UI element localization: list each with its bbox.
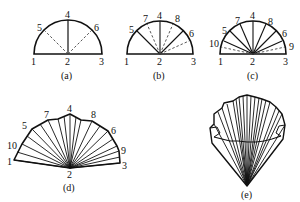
point-label-4: 4 <box>250 10 255 21</box>
caption-c: (c) <box>247 70 258 82</box>
point-label-1: 1 <box>218 56 223 67</box>
filter-paper-folding-diagram: 1 2 3 4 5 6 (a) 1 2 3 4 5 6 7 8 (b) <box>0 0 300 202</box>
panel-a: 1 2 3 4 5 6 (a) <box>31 9 104 82</box>
point-label-2: 2 <box>157 56 162 67</box>
caption-e: (e) <box>241 189 252 201</box>
point-label-3: 3 <box>99 56 104 67</box>
point-label-2: 2 <box>65 56 70 67</box>
caption-d: (d) <box>63 182 75 194</box>
point-label-6: 6 <box>111 125 116 136</box>
point-label-6: 6 <box>189 28 194 39</box>
point-label-3: 3 <box>283 56 288 67</box>
point-label-2: 2 <box>67 169 72 180</box>
point-label-7: 7 <box>235 15 240 26</box>
point-label-3: 3 <box>191 56 196 67</box>
point-label-3: 3 <box>122 160 127 171</box>
point-label-10: 10 <box>7 140 17 151</box>
point-label-5: 5 <box>129 24 134 35</box>
point-label-5: 5 <box>37 22 42 33</box>
point-label-8: 8 <box>91 109 96 120</box>
point-label-7: 7 <box>44 109 49 120</box>
point-label-4: 4 <box>67 103 72 114</box>
point-label-5: 5 <box>222 25 227 36</box>
point-label-9: 9 <box>121 145 126 156</box>
panel-c: 1 2 3 4 5 6 7 8 9 10 (c) <box>209 10 294 82</box>
point-label-7: 7 <box>143 13 148 24</box>
point-label-9: 9 <box>289 41 294 52</box>
panel-d: 1 2 3 4 5 6 7 8 9 10 (d) <box>7 103 127 194</box>
point-label-8: 8 <box>268 16 273 27</box>
panel-e: (e) <box>210 95 285 201</box>
point-label-8: 8 <box>175 13 180 24</box>
point-label-6: 6 <box>282 28 287 39</box>
point-label-5: 5 <box>22 120 27 131</box>
caption-b: (b) <box>153 70 165 82</box>
point-label-1: 1 <box>7 156 12 167</box>
caption-a: (a) <box>61 70 72 82</box>
point-label-2: 2 <box>250 56 255 67</box>
point-label-4: 4 <box>157 10 162 21</box>
panel-b: 1 2 3 4 5 6 7 8 (b) <box>124 10 196 82</box>
point-label-4: 4 <box>65 9 70 20</box>
point-label-10: 10 <box>209 38 219 49</box>
point-label-1: 1 <box>124 56 129 67</box>
point-label-1: 1 <box>31 56 36 67</box>
point-label-6: 6 <box>94 22 99 33</box>
